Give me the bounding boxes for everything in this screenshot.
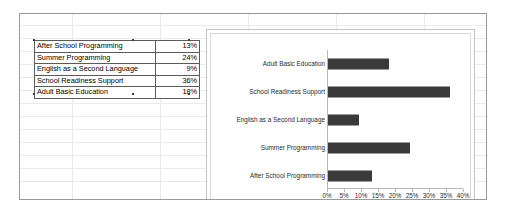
table-cell-label[interactable]: Summer Programming	[35, 52, 156, 64]
x-tick-label: 30%	[423, 193, 436, 199]
x-tick-label: 5%	[339, 193, 348, 199]
table-cell-label[interactable]: Adult Basic Education	[35, 87, 156, 99]
selection-handle-top-left[interactable]	[33, 39, 35, 41]
table-row[interactable]: Summer Programming 24%	[35, 52, 200, 64]
table-cell-label[interactable]: School Readiness Support	[35, 75, 156, 87]
data-range-table[interactable]: After School Programming 13% Summer Prog…	[34, 40, 200, 99]
category-label: After School Programming	[250, 173, 325, 179]
bar-summer-programming[interactable]	[328, 143, 410, 154]
chart-plot-frame: Adult Basic Education School Readiness S…	[210, 33, 471, 200]
table-cell-value[interactable]: 18%	[156, 87, 200, 99]
x-tick-label: 15%	[372, 193, 385, 199]
category-label: Summer Programming	[261, 145, 325, 151]
selection-handle-bottom-left[interactable]	[33, 93, 35, 95]
category-axis-labels: Adult Basic Education School Readiness S…	[219, 34, 325, 200]
table-cell-value[interactable]: 24%	[156, 52, 200, 64]
x-tick-label: 25%	[406, 193, 419, 199]
worksheet-canvas[interactable]: After School Programming 13% Summer Prog…	[19, 13, 487, 200]
table-cell-label[interactable]: After School Programming	[35, 41, 156, 53]
bar-english-as-a-second-language[interactable]	[328, 115, 359, 126]
x-tick-label: 20%	[389, 193, 402, 199]
table-row[interactable]: Adult Basic Education 18%	[35, 87, 200, 99]
table-cell-value[interactable]: 13%	[156, 41, 200, 53]
bar-after-school-programming[interactable]	[328, 171, 372, 182]
table-row[interactable]: School Readiness Support 36%	[35, 75, 200, 87]
x-tick-label: 0%	[322, 193, 331, 199]
table-row[interactable]: English as a Second Language 9%	[35, 64, 200, 76]
table-cell-value[interactable]: 36%	[156, 75, 200, 87]
x-tick-label: 40%	[457, 193, 470, 199]
x-tick-label: 35%	[440, 193, 453, 199]
table-cell-value[interactable]: 9%	[156, 64, 200, 76]
table-cell-label[interactable]: English as a Second Language	[35, 64, 156, 76]
selection-handle-top-middle[interactable]	[132, 39, 134, 41]
bar-adult-basic-education[interactable]	[328, 59, 389, 70]
selection-handle-bottom-right[interactable]	[188, 93, 190, 95]
category-label: School Readiness Support	[249, 89, 325, 95]
x-tick-label: 10%	[355, 193, 368, 199]
selection-handle-top-right[interactable]	[188, 39, 190, 41]
bar-school-readiness-support[interactable]	[328, 87, 450, 98]
category-label: Adult Basic Education	[263, 61, 325, 67]
table-row[interactable]: After School Programming 13%	[35, 41, 200, 53]
selection-handle-bottom-middle[interactable]	[132, 93, 134, 95]
chart-object[interactable]: Adult Basic Education School Readiness S…	[206, 29, 475, 200]
category-label: English as a Second Language	[237, 117, 325, 123]
bar-chart-plot: Adult Basic Education School Readiness S…	[211, 34, 470, 200]
